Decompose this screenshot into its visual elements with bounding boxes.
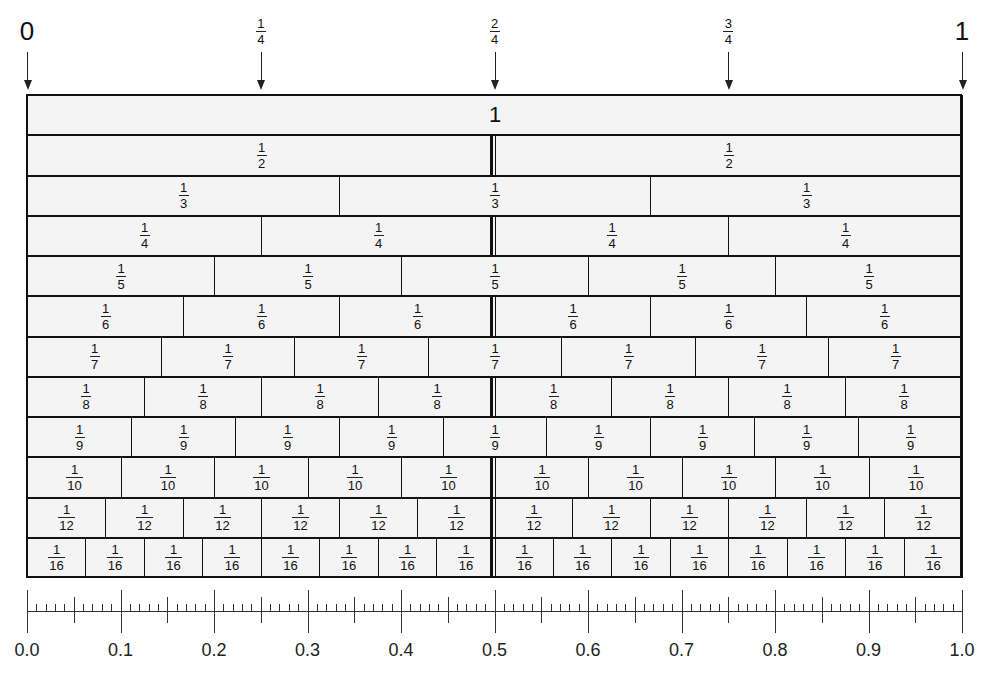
fraction-numerator: 1 (537, 463, 546, 476)
half-divider-segment (490, 498, 493, 538)
unit-fraction-label: 15 (490, 262, 500, 291)
unit-fraction-label: 116 (224, 543, 240, 572)
fraction-cell: 17 (161, 337, 295, 377)
fraction-denominator: 4 (841, 237, 850, 250)
unit-fraction-label: 110 (534, 463, 550, 492)
fraction-numerator: 1 (607, 221, 616, 234)
ruler-tick (308, 590, 309, 633)
fraction-denominator: 7 (90, 358, 99, 371)
fraction-numerator: 1 (757, 342, 766, 355)
unit-fraction-label: 17 (624, 342, 634, 371)
unit-fraction-label: 13 (179, 181, 189, 210)
unit-fraction-label: 18 (782, 382, 792, 411)
fraction-numerator: 1 (870, 543, 879, 556)
ruler-tick (915, 597, 916, 623)
fraction-numerator: 1 (724, 141, 733, 154)
fraction-cell: 18 (845, 377, 963, 417)
fraction-numerator: 1 (724, 463, 733, 476)
ruler-tick (523, 604, 524, 612)
fraction-denominator: 6 (101, 318, 110, 331)
unit-fraction-label: 110 (908, 463, 924, 492)
fraction-denominator: 7 (757, 358, 766, 371)
ruler-tick (551, 604, 552, 612)
unit-fraction-label: 15 (303, 262, 313, 291)
fraction-denominator: 12 (58, 519, 74, 532)
ruler-tick (205, 604, 206, 612)
fraction-numerator: 1 (724, 302, 733, 315)
unit-fraction-label: 112 (370, 503, 386, 532)
ruler-tick (513, 604, 514, 612)
fraction-numerator: 1 (802, 181, 811, 194)
fraction-numerator: 1 (520, 543, 529, 556)
fraction-cell: 13 (339, 176, 651, 216)
ruler-tick (438, 604, 439, 612)
marker-fraction: 14 (256, 17, 266, 46)
unit-fraction-label: 112 (292, 503, 308, 532)
ruler-tick (532, 604, 533, 612)
fraction-cell: 15 (775, 256, 963, 296)
ruler-tick (476, 604, 477, 612)
ruler-tick (934, 604, 935, 612)
fraction-numerator: 1 (140, 221, 149, 234)
unit-fraction-label: 110 (160, 463, 176, 492)
fraction-cell: 112 (417, 498, 496, 538)
unit-fraction-label: 16 (413, 302, 423, 331)
fraction-cell: 112 (728, 498, 807, 538)
ruler-tick (747, 604, 748, 612)
fraction-numerator: 1 (677, 262, 686, 275)
fraction-cell: 116 (319, 538, 379, 578)
fraction-numerator: 1 (631, 463, 640, 476)
unit-fraction-label: 15 (677, 262, 687, 291)
unit-fraction-label: 14 (140, 221, 150, 250)
fraction-numerator: 1 (578, 543, 587, 556)
fraction-numerator: 1 (490, 262, 499, 275)
fraction-denominator: 6 (724, 318, 733, 331)
fraction-denominator: 7 (891, 358, 900, 371)
unit-fraction-label: 14 (374, 221, 384, 250)
fraction-cell: 18 (378, 377, 496, 417)
ruler-tick (177, 604, 178, 612)
fraction-row-5: 1515151515 (27, 256, 962, 296)
fraction-denominator: 16 (867, 559, 883, 572)
fraction-numerator: 1 (169, 543, 178, 556)
fraction-cell: 116 (845, 538, 905, 578)
unit-fraction-label: 18 (665, 382, 675, 411)
decimal-ruler: 0.00.10.20.30.40.50.60.70.80.91.0 (0, 590, 983, 682)
ruler-tick (784, 604, 785, 612)
fraction-cell: 112 (806, 498, 885, 538)
fraction-numerator: 1 (812, 543, 821, 556)
fraction-denominator: 16 (399, 559, 415, 572)
unit-fraction-label: 16 (880, 302, 890, 331)
ruler-tick (495, 590, 496, 633)
unit-fraction-label: 17 (757, 342, 767, 371)
unit-fraction-label: 110 (627, 463, 643, 492)
fraction-denominator: 8 (315, 398, 324, 411)
fraction-row-8: 1818181818181818 (27, 377, 962, 417)
fraction-denominator: 9 (802, 439, 811, 452)
ruler-tick (364, 604, 365, 612)
fraction-row-4: 14141414 (27, 216, 962, 256)
ruler-tick (869, 590, 870, 633)
unit-fraction-label: 116 (165, 543, 181, 572)
ruler-tick (27, 590, 28, 633)
ruler-tick (46, 604, 47, 612)
fraction-numerator: 1 (864, 262, 873, 275)
unit-fraction-label: 16 (257, 302, 267, 331)
fraction-numerator: 1 (62, 503, 71, 516)
fraction-cell: 112 (105, 498, 184, 538)
unit-fraction-label: 17 (891, 342, 901, 371)
ruler-tick (251, 604, 252, 612)
ruler-tick (504, 604, 505, 612)
ruler-tick (925, 604, 926, 612)
fraction-row-9: 191919191919191919 (27, 417, 962, 457)
fraction-numerator: 1 (753, 543, 762, 556)
fraction-cell: 116 (495, 538, 554, 578)
ruler-tick (233, 604, 234, 612)
ruler-tick (64, 604, 65, 612)
unit-fraction-label: 110 (253, 463, 269, 492)
unit-fraction-label: 14 (841, 221, 851, 250)
fraction-cell: 112 (495, 498, 573, 538)
fraction-denominator: 8 (899, 398, 908, 411)
ruler-tick (644, 604, 645, 612)
ruler-tick (223, 604, 224, 612)
